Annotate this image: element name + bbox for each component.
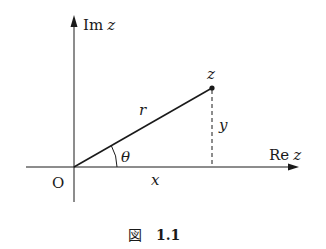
caption-number: 1.1 xyxy=(156,227,180,243)
origin-label: O xyxy=(52,174,64,192)
point-z-dot xyxy=(209,85,214,90)
imaginary-axis-arrow-icon xyxy=(71,15,78,27)
real-axis-label: Rez xyxy=(269,146,301,164)
radius-segment xyxy=(74,88,212,167)
angle-arc xyxy=(111,146,117,167)
point-z-label: z xyxy=(206,65,215,83)
real-axis-arrow-icon xyxy=(288,164,299,171)
radius-label: r xyxy=(139,101,147,119)
imaginary-part-label: y xyxy=(218,116,228,134)
caption-prefix: 図 xyxy=(128,227,142,243)
angle-label: θ xyxy=(121,148,130,166)
complex-plane-diagram: Imz Rez O z r y x θ 図 1.1 xyxy=(0,0,326,249)
imaginary-axis-label: Imz xyxy=(83,16,115,34)
real-part-label: x xyxy=(151,171,160,189)
